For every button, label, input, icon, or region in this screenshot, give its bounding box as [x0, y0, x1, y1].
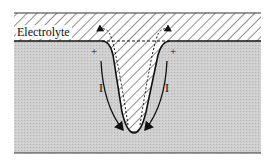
electrolyte-label: Electrolyte — [17, 25, 70, 39]
pit-corrosion-diagram: Electrolyte + + I I − — [0, 0, 272, 167]
current-label-left: I — [99, 81, 103, 95]
minus-sign-bottom: − — [130, 124, 137, 138]
current-label-right: I — [165, 81, 169, 95]
plus-sign-left: + — [91, 45, 97, 57]
plus-sign-right: + — [170, 45, 176, 57]
